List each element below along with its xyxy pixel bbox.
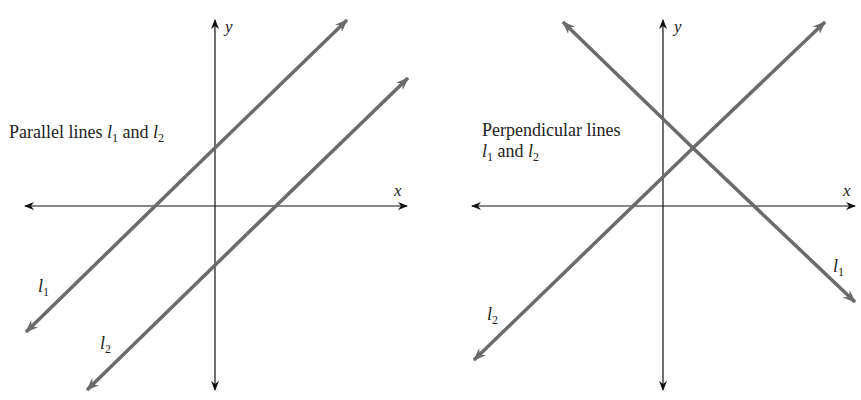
- right-l2-label: l2: [487, 304, 498, 327]
- diagram-canvas: y x Parallel lines l1 and l2 l1 l2 y x P…: [0, 0, 861, 400]
- left-line-l2: [247, 78, 408, 234]
- right-y-label: y: [672, 17, 682, 36]
- left-line-l1-neg: [26, 176, 186, 332]
- left-line-l2-neg: [87, 234, 247, 390]
- left-l1-label: l1: [38, 276, 49, 299]
- right-line-l2-neg: [474, 148, 693, 360]
- right-line-l1-neg: [693, 148, 855, 302]
- left-panel-parallel: y x Parallel lines l1 and l2 l1 l2: [9, 17, 408, 390]
- right-caption-line2: l1 and l2: [482, 141, 539, 164]
- right-x-label: x: [842, 181, 851, 200]
- left-y-label: y: [223, 17, 233, 36]
- right-caption-line1: Perpendicular lines: [482, 120, 620, 140]
- left-caption: Parallel lines l1 and l2: [9, 122, 164, 145]
- left-l2-label: l2: [100, 333, 111, 356]
- right-line-l2: [693, 22, 825, 148]
- right-panel-perpendicular: y x Perpendicular lines l1 and l2 l1 l2: [472, 17, 855, 390]
- left-x-label: x: [393, 181, 402, 200]
- left-line-l1: [186, 20, 347, 176]
- right-l1-label: l1: [833, 256, 844, 279]
